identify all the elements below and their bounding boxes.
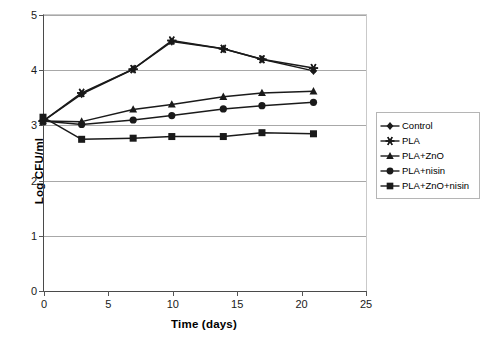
x-tick-mark — [237, 291, 238, 296]
y-tick-label: 2 — [31, 175, 37, 186]
legend-item-control[interactable]: Control — [379, 118, 476, 133]
y-tick-mark — [39, 15, 44, 16]
marker-circle — [387, 167, 394, 174]
x-tick-label: 15 — [231, 299, 243, 310]
y-gridline — [44, 15, 366, 16]
legend-item-pla-zno-nisin[interactable]: PLA+ZnO+nisin — [379, 178, 476, 193]
marker-diamond — [387, 122, 394, 130]
chart-figure: Log CFU/ml Time (days) 0123450510152025 … — [0, 0, 487, 342]
legend-circle-icon — [379, 164, 401, 178]
y-gridline — [44, 236, 366, 237]
y-tick-label: 5 — [31, 10, 37, 21]
y-tick-mark — [39, 236, 44, 237]
legend-diamond-icon — [379, 119, 401, 133]
legend-asterisk-icon — [379, 134, 401, 148]
x-tick-mark — [44, 291, 45, 296]
legend-label: PLA+ZnO — [401, 151, 444, 161]
x-tick-mark — [173, 291, 174, 296]
y-tick-mark — [39, 70, 44, 71]
x-tick-mark — [108, 291, 109, 296]
legend-triangle-icon — [379, 149, 401, 163]
x-tick-label: 20 — [295, 299, 307, 310]
legend-item-pla[interactable]: PLA — [379, 133, 476, 148]
y-tick-label: 0 — [31, 286, 37, 297]
chart-legend: ControlPLAPLA+ZnOPLA+nisinPLA+ZnO+nisin — [376, 112, 480, 199]
plot-area: 0123450510152025 — [43, 14, 367, 292]
legend-square-icon — [379, 179, 401, 193]
marker-asterisk — [386, 137, 395, 145]
x-tick-label: 25 — [360, 299, 372, 310]
y-tick-mark — [39, 181, 44, 182]
x-axis-title: Time (days) — [43, 318, 365, 330]
marker-square — [387, 182, 394, 189]
x-tick-label: 0 — [41, 299, 47, 310]
legend-item-pla-zno[interactable]: PLA+ZnO — [379, 148, 476, 163]
y-tick-label: 3 — [31, 120, 37, 131]
legend-label: PLA+nisin — [401, 166, 445, 176]
y-gridline — [44, 181, 366, 182]
y-tick-label: 1 — [31, 230, 37, 241]
legend-label: Control — [401, 121, 433, 131]
x-tick-mark — [366, 291, 367, 296]
legend-item-pla-nisin[interactable]: PLA+nisin — [379, 163, 476, 178]
legend-label: PLA+ZnO+nisin — [401, 181, 469, 191]
x-tick-label: 10 — [167, 299, 179, 310]
y-gridline — [44, 125, 366, 126]
x-tick-label: 5 — [105, 299, 111, 310]
legend-label: PLA — [401, 136, 420, 146]
y-tick-label: 4 — [31, 65, 37, 76]
y-tick-mark — [39, 125, 44, 126]
y-gridline — [44, 70, 366, 71]
x-tick-mark — [302, 291, 303, 296]
